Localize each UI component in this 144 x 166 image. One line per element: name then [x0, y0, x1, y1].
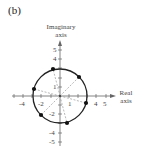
y-tick-label: 5 — [53, 47, 57, 54]
point-105deg — [51, 67, 55, 71]
real-axis-arrow-icon — [110, 94, 116, 98]
point-285deg — [65, 121, 69, 125]
y-tick-label: -2 — [49, 111, 55, 118]
y-tick-label: 1 — [53, 84, 57, 91]
y-tick-label: 4 — [53, 56, 57, 63]
point-225deg — [39, 113, 43, 117]
x-tick-label: 4 — [94, 101, 98, 108]
complex-plane-diagram — [0, 0, 144, 166]
point-345deg — [84, 101, 88, 105]
x-tick-label: 5 — [103, 101, 107, 108]
origin-point — [59, 95, 61, 97]
x-tick-label: -2 — [38, 101, 44, 108]
y-tick-label: -4 — [49, 130, 55, 137]
y-tick-label: -5 — [49, 139, 55, 146]
point-45deg — [77, 75, 81, 79]
x-tick-label: -4 — [19, 101, 25, 108]
point-165deg — [32, 87, 36, 91]
x-tick-label: 1 — [68, 101, 72, 108]
imaginary-axis-arrow-icon — [58, 40, 62, 46]
